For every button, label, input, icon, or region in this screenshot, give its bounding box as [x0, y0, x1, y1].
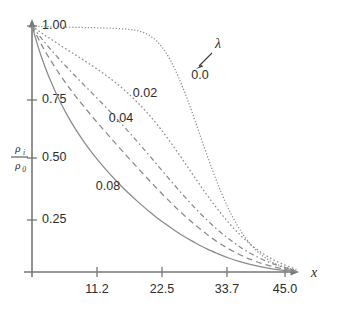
y-axis-title-numerator: ρ — [14, 142, 20, 154]
curve-lambda-0-02 — [32, 26, 296, 269]
x-ticklabel-11-2: 11.2 — [85, 282, 108, 296]
y-axis-title-denominator-subscript: 0 — [22, 165, 26, 174]
lambda-annotation-group: λ 0.0 — [191, 36, 221, 82]
x-ticklabel-45-0: 45.0 — [273, 282, 297, 296]
y-axis-title: ρ i ρ 0 — [11, 142, 28, 174]
curves-group — [32, 26, 296, 272]
y-ticklabel-1-00: 1.00 — [42, 18, 66, 32]
y-axis-title-numerator-subscript: i — [23, 148, 25, 157]
lambda-leader-line — [199, 53, 212, 66]
x-ticklabel-group: 11.2 22.5 33.7 45.0 — [85, 282, 297, 296]
y-ticklabel-0-75: 0.75 — [42, 92, 66, 106]
x-ticklabel-22-5: 22.5 — [150, 282, 174, 296]
x-axis-title: x — [310, 265, 318, 280]
curve-lambda-0-08 — [32, 26, 296, 272]
y-axis-title-denominator: ρ — [14, 159, 20, 171]
x-ticklabel-33-7: 33.7 — [215, 282, 239, 296]
y-ticklabel-group: 1.00 0.75 0.50 0.25 — [42, 18, 66, 226]
curve-lambda-0-06 — [32, 26, 296, 271]
curve-label-0-04: 0.04 — [109, 111, 133, 125]
density-ratio-line-chart: 1.00 0.75 0.50 0.25 11.2 22.5 33.7 45.0 … — [0, 0, 345, 314]
y-ticklabel-0-25: 0.25 — [42, 212, 66, 226]
curve-label-0-02: 0.02 — [133, 86, 157, 100]
curve-label-0-08: 0.08 — [96, 179, 120, 193]
curve-lambda-0-0 — [32, 26, 296, 270]
y-ticklabel-0-50: 0.50 — [42, 150, 66, 164]
lambda-symbol: λ — [214, 36, 221, 51]
curve-label-0-0: 0.0 — [191, 68, 208, 82]
chart-figure: 1.00 0.75 0.50 0.25 11.2 22.5 33.7 45.0 … — [0, 0, 345, 314]
axes-group — [24, 19, 299, 277]
curve-lambda-0-04 — [32, 26, 296, 270]
